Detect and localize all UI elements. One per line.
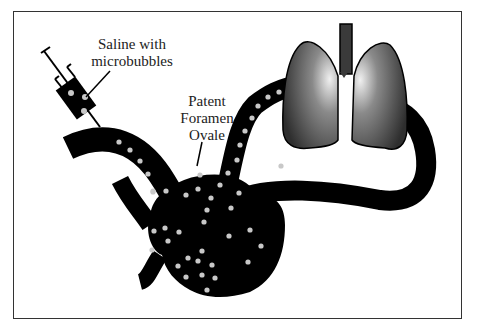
saline-label: Saline with microbubbles: [82, 36, 182, 70]
pfo-label-line3: Ovale: [172, 127, 242, 144]
pfo-label: Patent Foramen Ovale: [172, 93, 242, 144]
saline-label-line1: Saline with: [82, 36, 182, 53]
pfo-label-line1: Patent: [172, 93, 242, 110]
pfo-label-line2: Foramen: [172, 110, 242, 127]
pfo-leader-line: [197, 142, 202, 166]
saline-leader-line: [86, 71, 110, 97]
lungs: [283, 24, 407, 149]
diagram-canvas: [0, 0, 477, 331]
saline-label-line2: microbubbles: [82, 53, 182, 70]
